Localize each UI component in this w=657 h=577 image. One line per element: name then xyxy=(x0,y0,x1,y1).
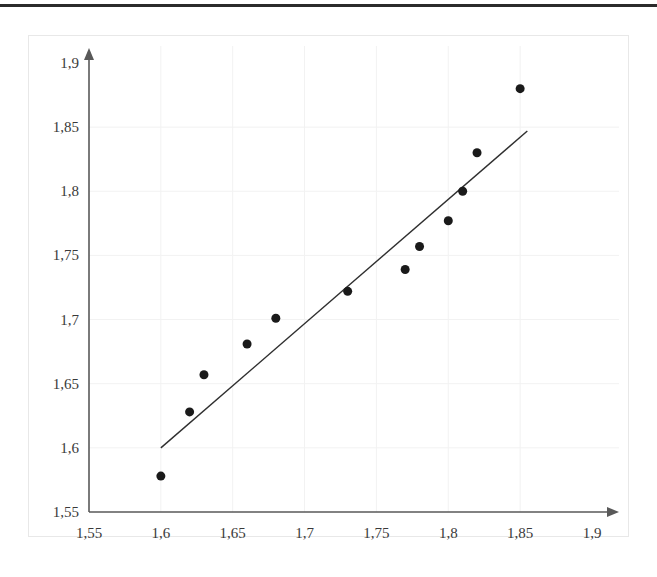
data-point-marker xyxy=(185,407,194,416)
data-point-marker xyxy=(156,472,165,481)
data-point-marker xyxy=(199,370,208,379)
data-point-marker xyxy=(473,148,482,157)
top-divider-rule xyxy=(0,4,657,7)
x-axis-tick-label: 1,65 xyxy=(220,526,246,541)
y-axis-tick-label: 1,55 xyxy=(29,505,79,520)
data-point-marker xyxy=(458,187,467,196)
x-axis-tick-label: 1,8 xyxy=(439,526,458,541)
x-axis-tick-label: 1,9 xyxy=(583,526,602,541)
data-point-marker xyxy=(516,84,525,93)
data-point-marker xyxy=(271,314,280,323)
y-axis-tick-label: 1,85 xyxy=(29,120,79,135)
y-axis-tick-label: 1,9 xyxy=(29,56,79,71)
y-axis-tick-label: 1,7 xyxy=(29,312,79,327)
data-point-marker xyxy=(401,265,410,274)
x-axis-tick-label: 1,7 xyxy=(295,526,314,541)
y-axis-tick-label: 1,75 xyxy=(29,248,79,263)
y-axis-arrow-icon xyxy=(84,48,94,60)
scatter-plot-canvas xyxy=(29,36,628,536)
x-axis-arrow-icon xyxy=(607,507,619,517)
y-axis-tick-label: 1,65 xyxy=(29,376,79,391)
x-axis-tick-label: 1,85 xyxy=(507,526,533,541)
x-axis-tick-label: 1,55 xyxy=(76,526,102,541)
x-axis-tick-label: 1,6 xyxy=(151,526,170,541)
data-point-marker xyxy=(343,287,352,296)
data-point-marker xyxy=(243,339,252,348)
y-axis-tick-label: 1,8 xyxy=(29,184,79,199)
data-points-group xyxy=(156,84,524,480)
data-point-marker xyxy=(415,242,424,251)
chart-frame: 1,551,61,651,71,751,81,851,9 1,551,61,65… xyxy=(28,35,629,537)
y-axis-tick-label: 1,6 xyxy=(29,440,79,455)
data-point-marker xyxy=(444,216,453,225)
x-axis-tick-label: 1,75 xyxy=(363,526,389,541)
